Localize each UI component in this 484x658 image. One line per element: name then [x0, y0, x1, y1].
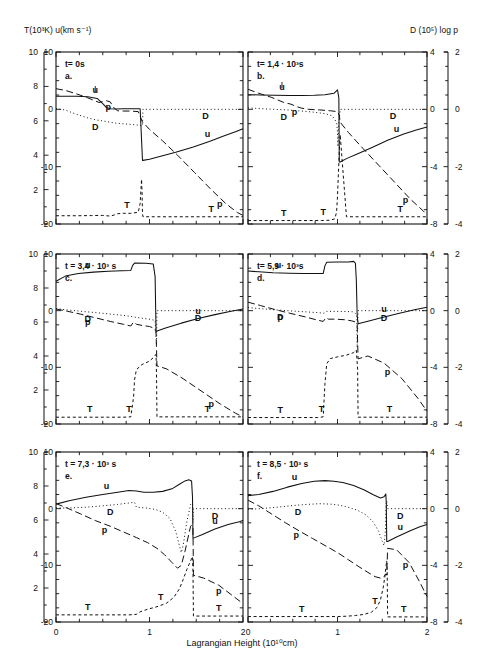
curve-p [56, 89, 243, 216]
d-tick-label: 0 [430, 306, 435, 316]
curve-label-p: p [403, 560, 409, 570]
curve-label-D: D [397, 511, 404, 521]
curve-label-T: T [216, 603, 222, 613]
u-tick-label: -10 [41, 362, 54, 372]
curve-label-T: T [126, 404, 132, 414]
curve-D [248, 108, 427, 147]
curve-label-D: D [390, 111, 397, 121]
t-tick-label: 10 [29, 249, 39, 259]
logp-tick-label: -2 [455, 560, 463, 570]
curve-label-p: p [403, 195, 409, 205]
outer-T-axis: 108642 [29, 249, 49, 424]
panel-letter: f. [257, 471, 262, 481]
x-tick-label: 0 [246, 627, 251, 637]
curve-D [56, 109, 243, 126]
curve-u [56, 96, 243, 160]
t-tick-label: 2 [33, 185, 38, 195]
panel-a: 100-10-20upDDupTTt= 0sa. [41, 47, 243, 229]
curve-label-D: D [202, 111, 209, 121]
d-tick-label: -4 [430, 560, 438, 570]
curve-label-T: T [85, 602, 91, 612]
panel-d: 40-4-8uDpDupTTTt= 5,9 · 10³sd. [248, 249, 438, 429]
logp-tick-label: -4 [455, 419, 463, 429]
curve-label-p: p [106, 102, 112, 112]
curve-label-T: T [124, 200, 130, 210]
logp-tick-label: 0 [455, 104, 460, 114]
logp-tick-label: -2 [455, 362, 463, 372]
curve-label-T: T [158, 592, 164, 602]
panel-letter: c. [65, 273, 72, 283]
u-tick-label: 10 [44, 249, 54, 259]
d-tick-label: 4 [430, 47, 435, 57]
t-tick-label: 2 [33, 385, 38, 395]
t-tick-label: 2 [33, 583, 38, 593]
logp-tick-label: 2 [455, 47, 460, 57]
panel-frame [248, 452, 427, 622]
u-tick-label: -10 [41, 162, 54, 172]
d-tick-label: 4 [430, 249, 435, 259]
u-tick-label: 0 [48, 504, 53, 514]
x-axis-title: Lagrangian Height (10¹⁰cm) [186, 638, 297, 648]
u-tick-label: 10 [44, 447, 54, 457]
curve-label-p: p [85, 317, 91, 327]
curve-label-u: u [397, 522, 403, 532]
u-tick-label: 0 [48, 306, 53, 316]
curve-label-u: u [381, 304, 387, 314]
panel-time-label: t= 5,9 · 10³s [257, 261, 304, 271]
panel-frame [56, 52, 243, 224]
left-axis-title: T(10³K) u(km s⁻¹) [24, 25, 92, 35]
panel-letter: e. [65, 471, 72, 481]
logp-tick-label: 0 [455, 504, 460, 514]
curve-label-u: u [212, 516, 218, 526]
outer-logp-axis: 20-2-4 [444, 47, 463, 229]
panel-e: 100-10-20uDpDupTTTt = 7,3 · 10³ se. [41, 447, 243, 627]
u-tick-label: 10 [44, 47, 54, 57]
d-tick-label: 0 [430, 504, 435, 514]
curve-label-T: T [319, 404, 325, 414]
x-tick-label: 1 [147, 627, 152, 637]
t-tick-label: 8 [33, 283, 38, 293]
d-tick-label: -4 [430, 362, 438, 372]
panel-frame [56, 254, 243, 424]
curve-T [56, 179, 243, 217]
panel-c: 100-10-20uDpDupTTTt = 3,4 · 10³ sc. [41, 249, 243, 429]
u-tick-label: -10 [41, 560, 54, 570]
d-tick-label: -4 [430, 162, 438, 172]
curve-label-T: T [205, 404, 211, 414]
outer-T-axis: 108642 [29, 447, 49, 622]
six-panel-figure: 10864220-2-410864220-2-410864220-2-4100-… [0, 0, 484, 658]
d-tick-label: 0 [430, 104, 435, 114]
panel-letter: d. [257, 273, 265, 283]
outer-T-axis: 108642 [29, 47, 49, 224]
right-axis-title: D (10⁵) log p [410, 25, 458, 35]
curve-label-u: u [394, 124, 400, 134]
panel-letter: a. [65, 71, 72, 81]
u-tick-label: -20 [41, 617, 54, 627]
logp-tick-label: -2 [455, 162, 463, 172]
u-tick-label: 0 [48, 104, 53, 114]
panel-b: 40-4-8upDDupTTTt= 1,4 · 10³sb. [248, 47, 438, 229]
curve-label-u: u [104, 481, 110, 491]
panel-time-label: t = 8,5 · 10³ s [257, 459, 309, 469]
curve-label-p: p [102, 525, 108, 535]
curve-label-p: p [294, 530, 300, 540]
u-tick-label: -20 [41, 219, 54, 229]
curve-label-T: T [372, 596, 378, 606]
curve-label-T: T [320, 207, 326, 217]
panel-time-label: t= 1,4 · 10³s [257, 59, 304, 69]
x-tick-label: 1 [335, 627, 340, 637]
curve-label-p: p [385, 367, 391, 377]
curve-label-T: T [281, 208, 287, 218]
logp-tick-label: 2 [455, 447, 460, 457]
d-tick-label: -8 [430, 419, 438, 429]
curve-u [248, 90, 427, 162]
d-tick-label: -8 [430, 617, 438, 627]
t-tick-label: 10 [29, 47, 39, 57]
t-tick-label: 4 [33, 351, 38, 361]
curve-label-p: p [277, 312, 283, 322]
t-tick-label: 4 [33, 150, 38, 160]
t-tick-label: 8 [33, 481, 38, 491]
curve-label-D: D [381, 313, 388, 323]
curve-label-p: p [216, 586, 222, 596]
t-tick-label: 6 [33, 116, 38, 126]
